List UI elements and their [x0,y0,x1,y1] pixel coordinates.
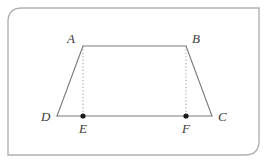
figure-border [8,8,259,155]
geometry-figure: ABCDEF [0,0,267,163]
trapezoid-outline [57,46,212,116]
vertex-label-d: D [41,110,50,123]
point-dot-f [183,113,188,118]
vertex-label-a: A [67,32,75,45]
figure-canvas [0,0,267,163]
vertex-label-c: C [218,110,227,123]
vertex-label-e: E [79,122,87,135]
figure-frame [8,8,259,155]
vertex-label-b: B [192,32,200,45]
altitude-lines [83,46,186,116]
vertex-label-f: F [182,122,190,135]
segment-bc [186,46,212,116]
segment-da [57,46,83,116]
point-dot-e [80,113,85,118]
